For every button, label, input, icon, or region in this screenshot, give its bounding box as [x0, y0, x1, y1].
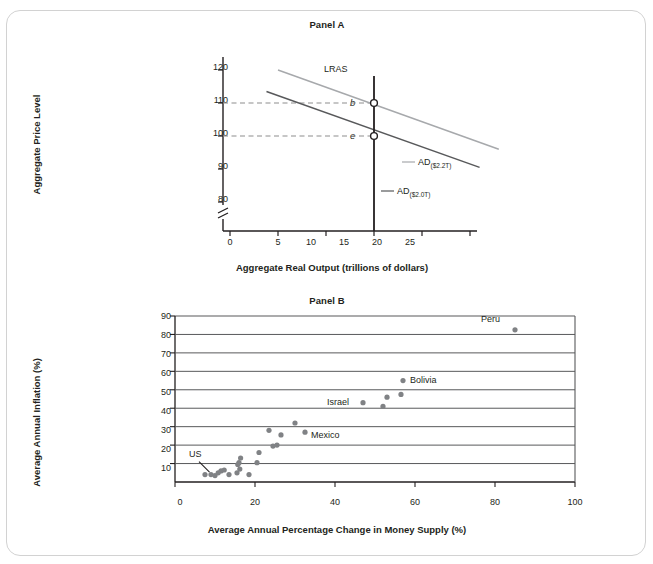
- panel-a: Panel A Aggregate Price Level Aggregate …: [7, 19, 647, 289]
- scatter-label-israel: Israel: [327, 397, 349, 407]
- scatter-label-us: US: [189, 449, 202, 459]
- panel-a-plot: [7, 19, 647, 289]
- panel-b: Panel B Average Annual Inflation (%) Ave…: [7, 289, 647, 551]
- scatter-label-bolivia: Bolivia: [410, 375, 437, 385]
- scatter-label-mexico: Mexico: [311, 430, 340, 440]
- panel-b-point-labels: USMexicoIsraelBoliviaPeru: [7, 289, 647, 551]
- scatter-label-peru: Peru: [481, 314, 500, 324]
- figure-frame: Panel A Aggregate Price Level Aggregate …: [6, 10, 646, 556]
